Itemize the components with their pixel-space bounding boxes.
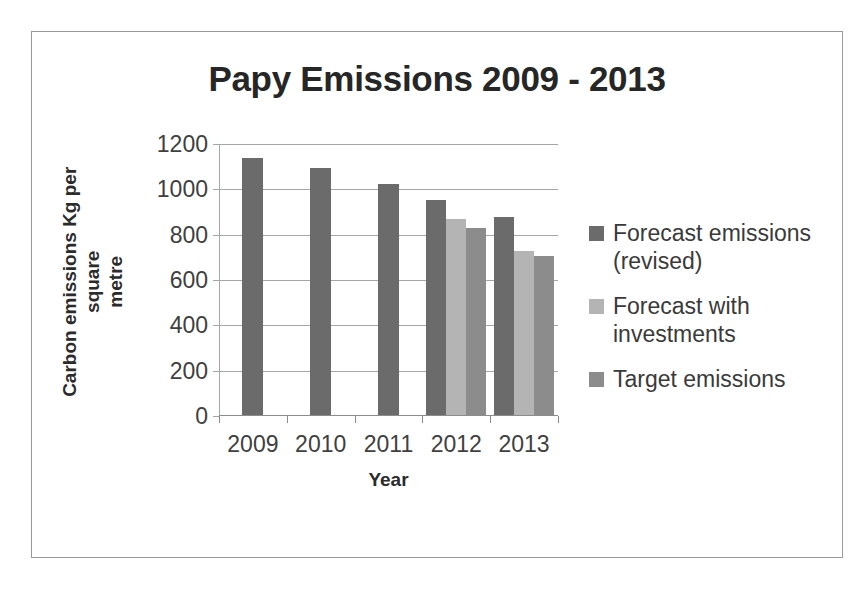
bar-group: 2012: [422, 143, 490, 415]
x-axis-line: [219, 415, 558, 416]
legend-label: Forecast emissions(revised): [613, 220, 811, 275]
y-axis-tick-label: 800: [170, 221, 208, 248]
bar[interactable]: [466, 228, 486, 415]
x-axis-tick-label: 2011: [364, 431, 413, 458]
bar[interactable]: [514, 251, 534, 415]
legend-item[interactable]: Forecast withinvestments: [589, 293, 835, 348]
legend-label-line: (revised): [613, 248, 811, 276]
legend-item[interactable]: Forecast emissions(revised): [589, 220, 835, 275]
x-axis-tick: [287, 416, 288, 423]
x-axis-tick-label: 2009: [227, 431, 278, 458]
chart-legend: Forecast emissions(revised)Forecast with…: [589, 220, 835, 412]
bar[interactable]: [378, 184, 399, 415]
y-axis-tick-label: 200: [170, 357, 208, 384]
bar-group: 2010: [287, 143, 355, 415]
x-axis-tick-label: 2010: [295, 431, 346, 458]
x-axis-tick: [422, 416, 423, 423]
legend-swatch-icon: [589, 372, 604, 387]
legend-label-line: Forecast emissions: [613, 220, 811, 248]
x-axis-tick-label: 2013: [498, 431, 549, 458]
legend-label-line: Forecast with: [613, 293, 750, 321]
bar[interactable]: [534, 256, 554, 415]
legend-label-line: investments: [613, 321, 750, 349]
bar[interactable]: [494, 217, 514, 415]
bar-group: 2009: [219, 143, 287, 415]
y-axis-tick-label: 1200: [157, 131, 208, 158]
legend-label-line: Target emissions: [613, 366, 786, 394]
y-axis-title-line-1: Carbon emissions Kg per square: [58, 157, 104, 407]
legend-swatch-icon: [589, 226, 604, 241]
bar[interactable]: [446, 219, 466, 415]
x-axis-title: Year: [219, 469, 558, 491]
y-axis-title: Carbon emissions Kg per square metre: [58, 157, 128, 407]
bar[interactable]: [242, 158, 263, 415]
bar-group: 2011: [355, 143, 423, 415]
bar-group: 2013: [490, 143, 558, 415]
x-axis-tick-label: 2012: [431, 431, 482, 458]
bar[interactable]: [426, 200, 446, 415]
legend-label: Forecast withinvestments: [613, 293, 750, 348]
y-axis-tick-label: 600: [170, 267, 208, 294]
chart-title: Papy Emissions 2009 - 2013: [32, 59, 842, 99]
y-axis-title-line-2: metre: [105, 157, 128, 407]
legend-swatch-icon: [589, 299, 604, 314]
y-axis-tick-label: 400: [170, 312, 208, 339]
x-axis-tick: [490, 416, 491, 423]
x-axis-tick: [355, 416, 356, 423]
chart-canvas: Papy Emissions 2009 - 2013 Carbon emissi…: [0, 0, 866, 594]
x-axis-tick: [219, 416, 220, 423]
legend-label: Target emissions: [613, 366, 786, 394]
chart-frame: Papy Emissions 2009 - 2013 Carbon emissi…: [31, 31, 843, 558]
y-axis-tick-label: 0: [195, 403, 208, 430]
legend-item[interactable]: Target emissions: [589, 366, 835, 394]
x-axis-tick: [558, 416, 559, 423]
y-axis-tick-label: 1000: [157, 176, 208, 203]
plot-area: 020040060080010001200 200920102011201220…: [219, 144, 558, 416]
bar[interactable]: [310, 168, 331, 415]
